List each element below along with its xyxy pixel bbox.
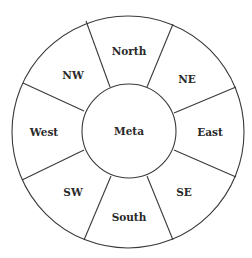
segment-east: East [197, 126, 223, 138]
compass-diagram: Meta North NE East SE South SW West NW [0, 0, 252, 258]
segment-ne: NE [178, 73, 196, 85]
segment-north: North [112, 45, 147, 57]
segment-se: SE [176, 186, 192, 198]
segment-nw: NW [62, 69, 84, 81]
center-label: Meta [114, 125, 144, 137]
segment-sw: SW [63, 186, 83, 198]
segment-west: West [29, 126, 59, 138]
segment-south: South [112, 211, 147, 223]
